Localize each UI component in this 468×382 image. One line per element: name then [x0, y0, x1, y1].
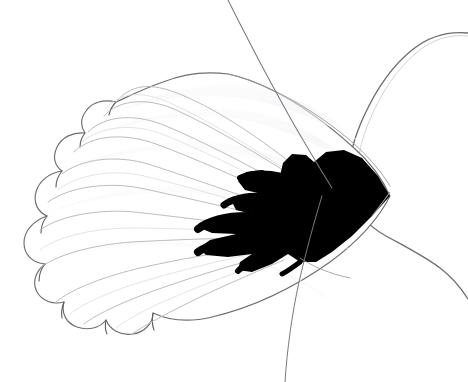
illustration-canvas: Petal with basal blotch: [0, 0, 468, 382]
botanical-illustration-svg: [0, 0, 468, 382]
